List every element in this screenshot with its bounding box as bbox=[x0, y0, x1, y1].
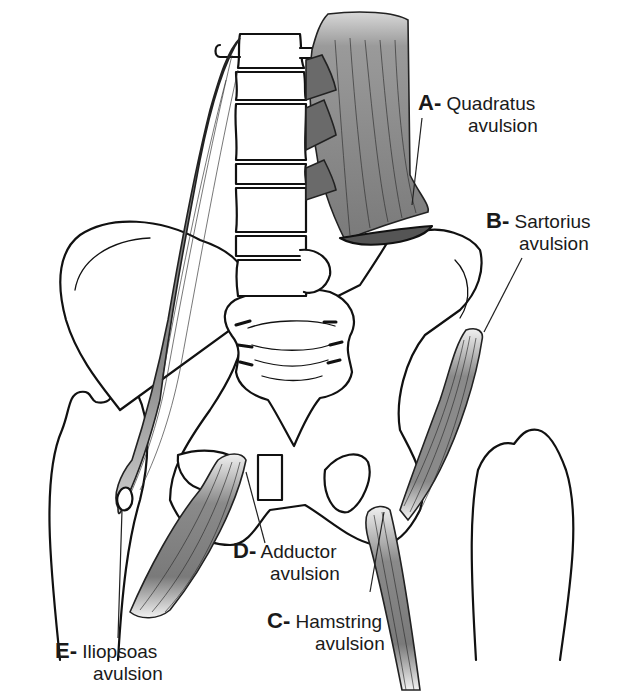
label-name: Adductor bbox=[260, 541, 336, 562]
label-letter: B- bbox=[486, 208, 509, 233]
label-line2: avulsion bbox=[418, 115, 538, 137]
label-line2: avulsion bbox=[233, 563, 340, 585]
label-iliopsoas: E- Iliopsoas avulsion bbox=[55, 640, 163, 685]
label-name: Quadratus bbox=[447, 93, 536, 114]
label-sartorius: B- Sartorius avulsion bbox=[486, 210, 591, 255]
quadratus-muscle bbox=[306, 12, 432, 245]
label-hamstring: C- Hamstring avulsion bbox=[267, 610, 385, 655]
left-femur bbox=[49, 381, 147, 660]
label-letter: D- bbox=[233, 538, 256, 563]
leader-b bbox=[484, 258, 522, 332]
label-letter: E- bbox=[55, 638, 77, 663]
label-line2: avulsion bbox=[55, 663, 163, 685]
label-letter: C- bbox=[267, 608, 290, 633]
label-letter: A- bbox=[418, 90, 441, 115]
label-name: Iliopsoas bbox=[82, 641, 157, 662]
label-quadratus: A- Quadratus avulsion bbox=[418, 92, 538, 137]
label-name: Hamstring bbox=[296, 611, 383, 632]
right-femur bbox=[472, 430, 574, 660]
label-name: Sartorius bbox=[515, 211, 591, 232]
label-adductor: D- Adductor avulsion bbox=[233, 540, 340, 585]
label-line2: avulsion bbox=[267, 633, 385, 655]
label-line2: avulsion bbox=[486, 233, 591, 255]
hamstring-muscle bbox=[366, 506, 420, 690]
